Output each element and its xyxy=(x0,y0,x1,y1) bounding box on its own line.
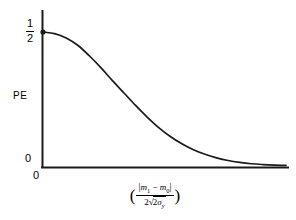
y-tick-label-zero: 0 xyxy=(25,153,31,164)
x-label-denominator: 2√2σy xyxy=(136,196,173,209)
x-label-open-paren: ( xyxy=(129,187,137,204)
x-label-ratio: |m1 − m0| 2√2σy xyxy=(136,181,173,210)
fraction-numerator: 1 xyxy=(26,18,34,32)
x-tick-label-zero: 0 xyxy=(33,170,39,181)
y-axis-title: PE xyxy=(13,91,27,101)
x-label-numerator: |m1 − m0| xyxy=(136,181,173,196)
radicand-group: 2σy xyxy=(153,196,166,207)
fraction-denominator: 2 xyxy=(26,32,34,45)
pe-curve xyxy=(43,32,286,165)
abs-bar-right: | xyxy=(170,181,172,192)
curve-start-marker xyxy=(40,29,45,34)
fraction-one-half: 1 2 xyxy=(26,18,34,44)
x-axis-title: ( |m1 − m0| 2√2σy ) xyxy=(110,181,200,210)
y-tick-label-one-half: 1 2 xyxy=(22,18,38,44)
figure-canvas: 1 2 0 PE 0 ( |m1 − m0| 2√2σy ) xyxy=(0,0,296,220)
x-label-close-paren: ) xyxy=(174,187,182,204)
sigma-subscript: y xyxy=(162,202,165,209)
